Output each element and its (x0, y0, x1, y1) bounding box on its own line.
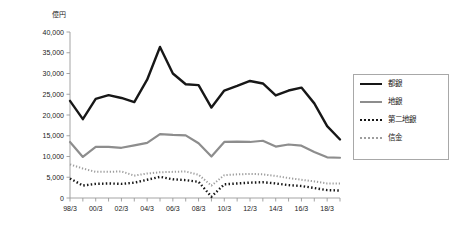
x-axis-tick-label: 06/3 (166, 205, 180, 212)
x-axis-tick-label: 14/3 (269, 205, 283, 212)
x-axis-tick-marks (70, 198, 340, 202)
y-axis-tick-marks (67, 32, 71, 198)
line-dotted-black-icon (360, 116, 382, 124)
chart-legend: 都銀 地銀 第二地銀 信金 (353, 74, 449, 160)
line-solid-gray-icon (360, 98, 382, 106)
data-series-line (70, 134, 340, 158)
y-axis-tick-label: 0 (60, 195, 64, 202)
line-dotted-gray-icon (360, 134, 382, 142)
y-axis-tick-label: 25,000 (43, 91, 65, 98)
legend-label-daini-chigin: 第二地銀 (388, 116, 416, 124)
y-axis-tick-label: 30,000 (43, 70, 65, 77)
x-axis-tick-label: 10/3 (217, 205, 231, 212)
line-chart: 億円 05,00010,00015,00020,00025,00030,0003… (0, 0, 455, 234)
legend-item-shinkin[interactable]: 信金 (354, 129, 448, 147)
y-axis-tick-label: 40,000 (43, 29, 65, 36)
x-axis-tick-labels: 98/300/302/304/306/308/310/312/314/316/3… (63, 205, 334, 212)
data-series-group (70, 47, 340, 197)
y-axis-tick-label: 5,000 (46, 174, 64, 181)
x-axis-tick-label: 02/3 (115, 205, 129, 212)
x-axis-tick-label: 08/3 (192, 205, 206, 212)
x-axis-tick-label: 98/3 (63, 205, 77, 212)
legend-item-chigin[interactable]: 地銀 (354, 93, 448, 111)
y-axis-tick-labels: 05,00010,00015,00020,00025,00030,00035,0… (43, 29, 65, 202)
legend-item-daini-chigin[interactable]: 第二地銀 (354, 111, 448, 129)
x-axis-tick-label: 00/3 (89, 205, 103, 212)
x-axis-tick-label: 04/3 (140, 205, 154, 212)
y-axis-tick-label: 20,000 (43, 112, 65, 119)
line-solid-black-icon (360, 80, 382, 88)
y-axis-tick-label: 10,000 (43, 153, 65, 160)
legend-label-shinkin: 信金 (388, 134, 402, 142)
x-axis-tick-label: 12/3 (243, 205, 257, 212)
data-series-line (70, 47, 340, 140)
legend-item-toghin[interactable]: 都銀 (354, 75, 448, 93)
legend-label-toghin: 都銀 (388, 80, 402, 88)
y-axis-tick-label: 35,000 (43, 49, 65, 56)
legend-label-chigin: 地銀 (388, 98, 402, 106)
y-axis-tick-label: 15,000 (43, 132, 65, 139)
x-axis-tick-label: 18/3 (320, 205, 334, 212)
x-axis-tick-label: 16/3 (295, 205, 309, 212)
